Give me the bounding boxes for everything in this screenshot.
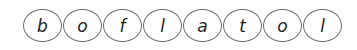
letter: f [120,16,126,36]
letter: b [37,16,48,36]
letter-circles-row: b o f l a t o l [23,9,343,42]
letter: t [239,16,246,36]
letter-circle: t [223,9,262,42]
letter-circle: l [303,9,342,42]
letter: o [277,16,287,36]
letter-circle: l [143,9,182,42]
letter-circle: o [263,9,302,42]
letter: l [160,16,165,36]
letter-circle: f [103,9,142,42]
letter-circle: o [63,9,102,42]
letter: o [77,16,87,36]
letter-circle: a [183,9,222,42]
letter: l [320,16,325,36]
letter: a [197,16,207,36]
letter-circle: b [23,9,62,42]
